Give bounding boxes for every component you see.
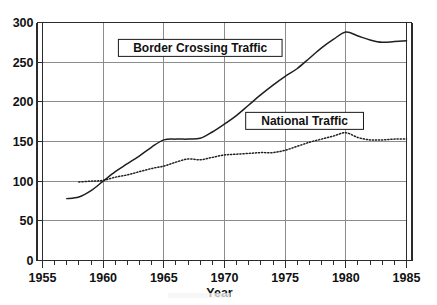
annotation-label: Border Crossing Traffic bbox=[133, 41, 267, 55]
annotation-national-traffic: National Traffic bbox=[246, 112, 364, 129]
y-tick-label: 0 bbox=[27, 254, 34, 268]
chart-figure: 050100150200250300 195519601965197019751… bbox=[0, 0, 437, 305]
x-tick-label: 1955 bbox=[29, 271, 57, 285]
x-tick-label: 1965 bbox=[150, 271, 178, 285]
y-tick-label: 300 bbox=[13, 16, 34, 30]
x-tick-label: 1980 bbox=[332, 271, 360, 285]
y-tick-label: 250 bbox=[13, 56, 34, 70]
annotation-border-crossing-traffic: Border Crossing Traffic bbox=[118, 39, 282, 56]
y-tick-label: 100 bbox=[13, 175, 34, 189]
y-tick-label: 200 bbox=[13, 95, 34, 109]
y-tick-label: 50 bbox=[20, 214, 34, 228]
y-tick-label: 150 bbox=[13, 135, 34, 149]
x-tick-label: 1985 bbox=[393, 271, 421, 285]
annotation-label: National Traffic bbox=[261, 114, 348, 128]
x-tick-label: 1960 bbox=[89, 271, 117, 285]
x-tick-label: 1975 bbox=[271, 271, 299, 285]
traffic-index-line-chart: 050100150200250300 195519601965197019751… bbox=[0, 0, 437, 305]
scan-artifact bbox=[168, 293, 230, 298]
x-tick-label: 1970 bbox=[211, 271, 239, 285]
